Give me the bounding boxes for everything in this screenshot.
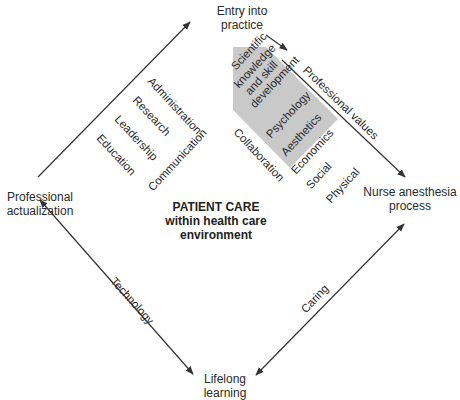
node-label-line: Professional — [0, 190, 80, 204]
node-nurse-anesthesia-process: Nurse anesthesia process — [360, 185, 460, 213]
node-label-line: learning — [195, 386, 255, 400]
center-subtitle: within health care — [150, 214, 282, 228]
node-label-line: process — [360, 199, 460, 213]
node-label-line: practice — [192, 18, 292, 32]
center-patient-care: PATIENT CARE within health care environm… — [150, 200, 282, 242]
node-entry-into-practice: Entry into practice — [192, 4, 292, 32]
node-label-line: Lifelong — [195, 372, 255, 386]
center-subtitle: environment — [150, 228, 282, 242]
center-title: PATIENT CARE — [150, 200, 282, 214]
node-label-line: Nurse anesthesia — [360, 185, 460, 199]
node-professional-actualization: Professional actualization — [0, 190, 80, 218]
node-lifelong-learning: Lifelong learning — [195, 372, 255, 400]
arrow-caring — [256, 224, 404, 375]
node-label-line: Entry into — [192, 4, 292, 18]
node-label-line: actualization — [0, 204, 80, 218]
